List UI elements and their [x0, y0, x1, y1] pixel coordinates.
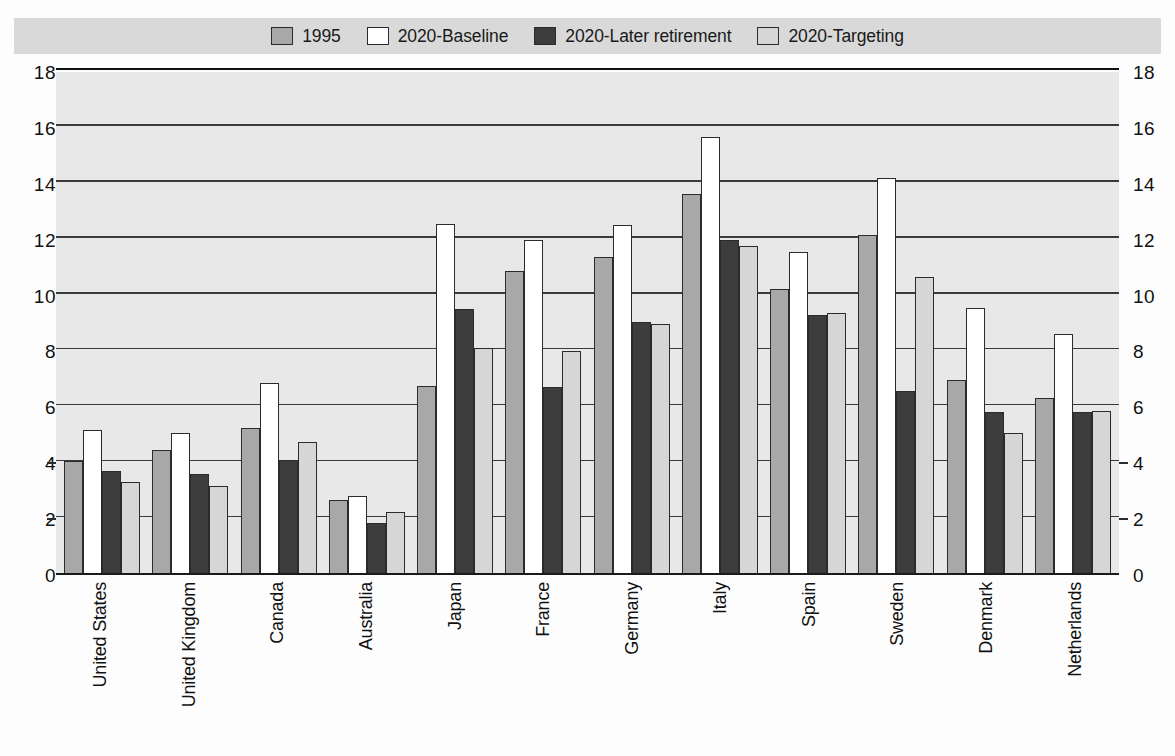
legend-swatch-2020-targeting	[757, 27, 779, 45]
bar	[966, 308, 985, 573]
bar	[896, 391, 915, 573]
bar-group-sweden	[852, 72, 940, 573]
bar	[524, 240, 543, 573]
bar-group-italy	[676, 72, 764, 573]
x-label-cell: Japan	[410, 578, 499, 753]
bar	[739, 246, 758, 573]
y-tick-mark-4	[47, 462, 56, 464]
x-label-cell: Spain	[765, 578, 854, 753]
x-axis-label-japan: Japan	[444, 582, 465, 630]
bar	[720, 240, 739, 573]
bar	[64, 461, 83, 573]
bar	[417, 386, 436, 573]
y-tick-mark-2	[1119, 518, 1128, 520]
bar	[298, 442, 317, 573]
bar	[789, 252, 808, 573]
x-label-cell: Denmark	[942, 578, 1031, 753]
bar	[947, 380, 966, 573]
legend-swatch-2020-later-retirement	[534, 27, 556, 45]
bar	[701, 137, 720, 573]
bar	[121, 482, 140, 573]
x-axis-label-germany: Germany	[621, 582, 642, 655]
y-tick-label-right-0: 0	[1133, 566, 1173, 585]
y-tick-label-right-10: 10	[1133, 287, 1173, 306]
y-tick-label-right-16: 16	[1133, 119, 1173, 138]
bar-groups	[56, 72, 1119, 573]
bar	[827, 313, 846, 573]
bar	[329, 500, 348, 573]
bar	[102, 471, 121, 573]
bar	[858, 235, 877, 573]
bar	[1073, 412, 1092, 573]
bar	[348, 496, 367, 573]
bar	[562, 351, 581, 573]
y-tick-label-left-14: 14	[16, 175, 56, 194]
bar	[505, 271, 524, 573]
plot-area	[56, 72, 1119, 575]
x-axis-label-italy: Italy	[710, 582, 731, 614]
legend-item-2020-later-retirement: 2020-Later retirement	[534, 26, 731, 47]
x-label-cell: Germany	[587, 578, 676, 753]
y-tick-label-right-4: 4	[1133, 454, 1173, 473]
bar	[171, 433, 190, 573]
bar	[455, 309, 474, 573]
y-tick-label-left-10: 10	[16, 287, 56, 306]
bar	[985, 412, 1004, 573]
x-label-cell: Sweden	[853, 578, 942, 753]
bar	[152, 450, 171, 573]
x-axis-label-united-states: United States	[90, 582, 111, 687]
bar	[1092, 411, 1111, 573]
chart-page: 19952020-Baseline2020-Later retirement20…	[0, 0, 1175, 756]
x-label-cell: United Kingdom	[145, 578, 234, 753]
bar	[613, 225, 632, 573]
bar	[682, 194, 701, 573]
x-label-cell: Canada	[233, 578, 322, 753]
bar-group-japan	[411, 72, 499, 573]
bar-group-canada	[235, 72, 323, 573]
y-tick-mark-4	[1119, 462, 1128, 464]
bar	[1035, 398, 1054, 573]
x-label-cell: Australia	[322, 578, 411, 753]
x-label-cell: United States	[56, 578, 145, 753]
legend-swatch-2020-baseline	[367, 27, 389, 45]
x-axis-label-sweden: Sweden	[887, 582, 908, 646]
x-axis-label-netherlands: Netherlands	[1064, 582, 1085, 677]
bar	[190, 474, 209, 573]
bar-group-denmark	[941, 72, 1029, 573]
bar	[915, 277, 934, 573]
bar	[209, 486, 228, 573]
bar	[260, 383, 279, 573]
bar-group-netherlands	[1029, 72, 1117, 573]
y-tick-label-left-0: 0	[16, 566, 56, 585]
x-axis-label-spain: Spain	[798, 582, 819, 627]
y-tick-label-left-18: 18	[16, 63, 56, 82]
bar	[279, 460, 298, 573]
y-tick-label-left-4: 4	[16, 454, 56, 473]
legend-label: 2020-Later retirement	[565, 26, 731, 47]
bar-group-united-kingdom	[146, 72, 234, 573]
bar	[1004, 433, 1023, 573]
legend-item-2020-baseline: 2020-Baseline	[367, 26, 509, 47]
y-tick-label-right-12: 12	[1133, 231, 1173, 250]
bar	[241, 428, 260, 573]
legend-item-2020-targeting: 2020-Targeting	[757, 26, 903, 47]
y-tick-mark-2	[47, 518, 56, 520]
y-tick-label-right-6: 6	[1133, 398, 1173, 417]
bar-group-united-states	[58, 72, 146, 573]
bar	[83, 430, 102, 573]
bar	[770, 289, 789, 573]
bar-group-australia	[323, 72, 411, 573]
y-tick-label-right-14: 14	[1133, 175, 1173, 194]
bar	[543, 387, 562, 573]
x-axis-labels: United StatesUnited KingdomCanadaAustral…	[56, 578, 1119, 753]
gridline-18	[56, 68, 1119, 71]
bar	[386, 512, 405, 573]
x-axis-label-united-kingdom: United Kingdom	[178, 582, 199, 707]
bar	[651, 324, 670, 573]
legend-label: 1995	[302, 26, 341, 47]
bar	[367, 523, 386, 573]
bar	[1054, 334, 1073, 573]
y-tick-label-left-16: 16	[16, 119, 56, 138]
bar-group-france	[499, 72, 587, 573]
legend-label: 2020-Baseline	[398, 26, 509, 47]
